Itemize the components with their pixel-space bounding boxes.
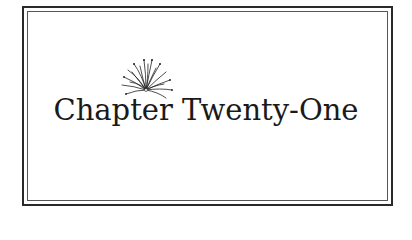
- chapter-title: Chapter Twenty-One: [0, 93, 412, 127]
